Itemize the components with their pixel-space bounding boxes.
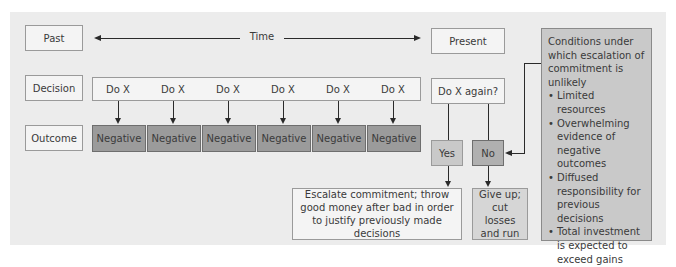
decision-label: Decision (25, 75, 83, 101)
no-box: No (472, 140, 504, 166)
outcome-negative: Negative (367, 125, 421, 152)
outcome-text: Negative (207, 132, 252, 145)
decision-arrow-line (393, 101, 394, 118)
yes-result-arrow-line (448, 166, 449, 181)
do-x-again-box: Do X again? (431, 78, 505, 104)
arrow-down-icon (335, 118, 341, 124)
outcome-text: Negative (317, 132, 362, 145)
conditions-list: Limited resources Overwhelming evidence … (548, 89, 645, 266)
no-branch-line (488, 104, 489, 140)
decision-arrow-line (173, 101, 174, 118)
decision-do-x: Do X (373, 84, 413, 95)
give-up-result-text: Give up; cut losses and run (477, 188, 523, 240)
past-label: Past (25, 25, 83, 51)
yes-text: Yes (439, 147, 455, 160)
outcome-negative: Negative (147, 125, 201, 152)
decision-do-x: Do X (318, 84, 358, 95)
decision-arrow-line (338, 101, 339, 118)
decision-arrow-line (118, 101, 119, 118)
arrow-down-icon (170, 118, 176, 124)
arrow-down-icon (115, 118, 121, 124)
yes-branch-line (448, 104, 449, 140)
arrow-down-icon (485, 181, 491, 187)
escalate-result-box: Escalate commitment; throw good money af… (292, 188, 462, 240)
outcome-text: Negative (152, 132, 197, 145)
time-label: Time (240, 31, 284, 42)
conditions-heading: Conditions under which escalation of com… (548, 35, 645, 89)
condition-item: Total investment is expected to exceed g… (548, 225, 645, 266)
arrow-down-icon (280, 118, 286, 124)
present-text: Present (449, 35, 487, 48)
no-text: No (481, 147, 495, 160)
arrow-down-icon (225, 118, 231, 124)
arrow-left-icon (505, 150, 512, 156)
decision-strip (92, 77, 421, 101)
decision-do-x: Do X (263, 84, 303, 95)
conditions-connector-bottom (511, 153, 525, 154)
condition-item: Limited resources (548, 89, 645, 116)
present-box: Present (431, 28, 505, 54)
outcome-negative: Negative (257, 125, 311, 152)
time-arrow-right-head-icon (414, 35, 421, 41)
escalate-result-text: Escalate commitment; throw good money af… (299, 188, 455, 240)
conditions-panel: Conditions under which escalation of com… (541, 28, 652, 241)
decision-arrow-line (228, 101, 229, 118)
decision-arrow-line (283, 101, 284, 118)
conditions-connector-vertical (524, 63, 525, 154)
outcome-label-text: Outcome (31, 132, 77, 145)
outcome-negative: Negative (202, 125, 256, 152)
decision-label-text: Decision (33, 82, 76, 95)
past-label-text: Past (44, 32, 65, 45)
give-up-result-box: Give up; cut losses and run (472, 188, 528, 240)
outcome-text: Negative (97, 132, 142, 145)
condition-item: Diffused responsibility for previous dec… (548, 171, 645, 225)
outcome-text: Negative (262, 132, 307, 145)
decision-do-x: Do X (208, 84, 248, 95)
decision-do-x: Do X (98, 84, 138, 95)
conditions-connector-top (524, 63, 541, 64)
outcome-text: Negative (372, 132, 417, 145)
condition-item: Overwhelming evidence of negative outcom… (548, 117, 645, 171)
arrow-down-icon (445, 181, 451, 187)
yes-box: Yes (431, 140, 463, 166)
arrow-down-icon (390, 118, 396, 124)
outcome-label: Outcome (25, 125, 83, 151)
outcome-negative: Negative (92, 125, 146, 152)
decision-do-x: Do X (153, 84, 193, 95)
outcome-negative: Negative (312, 125, 366, 152)
do-x-again-text: Do X again? (438, 85, 498, 98)
no-result-arrow-line (488, 166, 489, 181)
